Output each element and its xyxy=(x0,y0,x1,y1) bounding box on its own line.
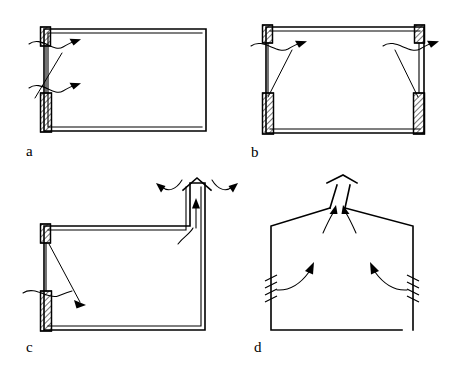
panel-a-upper-inflow-arrow xyxy=(29,39,81,48)
panel-c-stack-wind-right-arrow xyxy=(212,180,238,193)
panel-c-stack-wind-left-arrow xyxy=(156,180,182,193)
panel-c-lower-opening xyxy=(41,291,52,331)
panel-b-upper-left-opening xyxy=(263,25,273,43)
panel-a-label: a xyxy=(26,143,33,159)
panel-c-label: c xyxy=(26,339,33,355)
figure-root: a xyxy=(0,0,459,369)
panel-d-right-inflow-arrow xyxy=(370,262,407,290)
panel-b-upper-right-opening xyxy=(415,25,425,43)
panel-d-ridge-upstand-right xyxy=(345,185,350,208)
panel-b-right-leader-line xyxy=(395,50,418,97)
panel-a-upper-opening xyxy=(41,27,51,46)
panel-c-chimney-cap xyxy=(183,178,211,190)
panel-a-lower-opening xyxy=(41,93,52,132)
panel-b: b xyxy=(251,25,439,160)
panel-c-stack-updraft-arrow xyxy=(192,198,200,228)
ventilation-diagram: a xyxy=(0,0,459,369)
panel-c-building-outline xyxy=(44,183,205,330)
panel-b-lower-right-opening xyxy=(414,93,425,134)
panel-d-right-envelope xyxy=(345,208,413,330)
panel-b-wall-inner-lines xyxy=(270,31,420,129)
panel-c: c xyxy=(23,178,238,355)
panel-a-wall-inner-lines xyxy=(48,33,202,127)
panel-c-upper-opening xyxy=(41,224,51,243)
panel-d-left-envelope xyxy=(271,208,402,330)
panel-b-label: b xyxy=(251,144,259,160)
panel-b-building-outline xyxy=(266,27,424,133)
panel-c-low-inflow-arrow xyxy=(23,291,86,309)
panel-d-ridge-upstand-left xyxy=(330,185,337,208)
panel-a: a xyxy=(26,27,206,159)
panel-b-left-inflow-arrow xyxy=(251,41,307,50)
panel-d-label: d xyxy=(254,339,262,355)
panel-b-lower-left-opening xyxy=(263,93,274,134)
panel-b-left-leader-line xyxy=(268,50,292,97)
panel-a-lower-inflow-arrow xyxy=(29,83,81,92)
panel-c-wall-inner-lines xyxy=(48,187,201,326)
panel-d: d xyxy=(254,175,419,355)
panel-d-left-inflow-arrow xyxy=(277,262,314,290)
panel-d-ridge-cap xyxy=(327,175,357,183)
panel-b-right-outflow-arrow xyxy=(383,41,439,50)
